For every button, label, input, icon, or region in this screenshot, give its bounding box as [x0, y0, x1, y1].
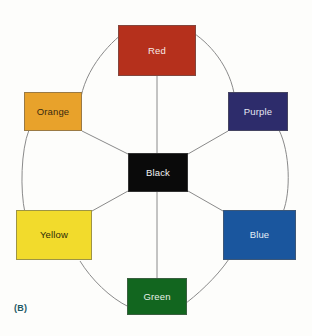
- color-node-red: Red: [118, 25, 196, 76]
- color-node-yellow-label: Yellow: [40, 230, 68, 240]
- color-node-blue-label: Blue: [250, 230, 270, 240]
- arc-green-yellow: [80, 261, 129, 307]
- spoke-black-blue: [188, 191, 223, 211]
- color-node-purple-label: Purple: [244, 107, 272, 117]
- panel-label: (B): [14, 303, 27, 313]
- arc-blue-green: [182, 259, 229, 306]
- arc-purple-blue: [279, 130, 288, 212]
- color-node-orange: Orange: [24, 92, 82, 131]
- spoke-black-yellow: [92, 191, 128, 211]
- color-node-orange-label: Orange: [37, 107, 70, 117]
- spoke-black-purple: [188, 131, 228, 154]
- spoke-black-orange: [82, 131, 128, 154]
- color-wheel-figure: Red Orange Purple Black Yellow Blue Gree…: [0, 0, 312, 336]
- color-node-yellow: Yellow: [16, 210, 92, 260]
- color-node-green-label: Green: [143, 292, 170, 302]
- arc-yellow-orange: [22, 130, 29, 213]
- color-node-black-label: Black: [146, 168, 170, 178]
- color-node-black-center: Black: [128, 153, 188, 192]
- color-node-red-label: Red: [148, 46, 166, 56]
- color-node-green: Green: [127, 278, 187, 315]
- color-node-blue: Blue: [223, 210, 296, 260]
- color-node-purple: Purple: [228, 92, 288, 131]
